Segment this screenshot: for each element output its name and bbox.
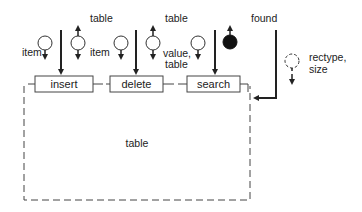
insert-operation: insert [35,76,93,92]
search-table-label: table [165,58,188,70]
search-operation: search [187,76,240,92]
create-call-arrow [256,30,276,98]
size-label: size [309,63,328,75]
delete-label: delete [122,78,152,90]
rectype-size-couple-icon [285,54,299,82]
delete-item-label: item [90,46,110,58]
search-label: search [197,78,230,90]
found-label: found [251,12,277,24]
found-flag-couple-icon [223,28,237,49]
insert-table-couple-icon [71,28,85,57]
rectype-label: rectype, [309,51,346,63]
delete-operation: delete [110,76,163,92]
insert-table-label: table [90,12,113,24]
delete-table-couple-icon [146,28,160,57]
delete-table-label: table [165,12,188,24]
insert-label: insert [51,78,78,90]
module-table-label: table [126,137,149,149]
insert-item-label: item [22,46,42,58]
module-diagram: insert delete search item table item tab… [0,0,362,212]
delete-item-couple-icon [114,36,128,57]
search-value-table-couple-icon [191,36,205,57]
